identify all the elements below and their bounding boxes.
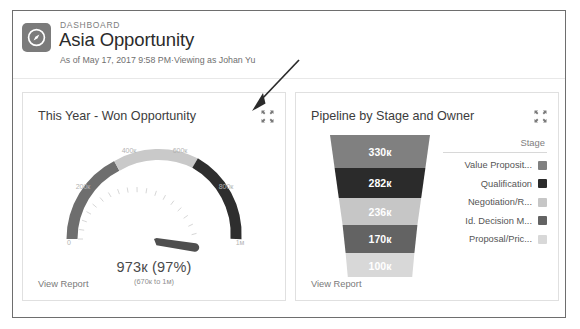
dashboard-header: DASHBOARD Asia Opportunity As of May 17,… — [13, 11, 565, 79]
legend-swatch-icon — [538, 198, 547, 207]
legend-item-label: Proposal/Pric... — [469, 234, 532, 244]
legend-item-negotiation-review[interactable]: Negotiation/R... — [443, 193, 547, 212]
gauge-tick-label-1: 200к — [76, 183, 92, 190]
expand-icon[interactable] — [534, 110, 547, 123]
card-title-funnel: Pipeline by Stage and Owner — [311, 109, 474, 123]
funnel-chart: 330к 282к 236к 170к 100к — [318, 135, 442, 283]
gauge-tick-label-3: 600к — [173, 147, 189, 154]
page-title: Asia Opportunity — [59, 29, 194, 51]
funnel-label-2: 236к — [369, 206, 393, 218]
gauge-value-text: 973к (97%) — [116, 259, 191, 275]
legend-item-label: Negotiation/R... — [468, 197, 532, 207]
legend-item-label: Value Proposit... — [464, 160, 532, 170]
legend-swatch-icon — [538, 179, 547, 188]
dashboard-window: DASHBOARD Asia Opportunity As of May 17,… — [12, 10, 566, 318]
gauge-tick-label-5: 1м — [236, 239, 245, 246]
view-report-link-gauge[interactable]: View Report — [38, 279, 88, 289]
gauge-tick-label-0: 0 — [67, 239, 71, 246]
gauge-needle — [153, 238, 200, 252]
legend-item-value-proposition[interactable]: Value Proposit... — [443, 156, 547, 175]
card-pipeline-by-stage-and-owner: Pipeline by Stage and Owner — [295, 92, 559, 301]
legend-swatch-icon — [538, 216, 547, 225]
dashboard-gauge-icon — [22, 23, 51, 52]
view-report-link-funnel[interactable]: View Report — [311, 279, 361, 289]
legend-item-qualification[interactable]: Qualification — [443, 175, 547, 194]
funnel-label-1: 282к — [369, 177, 393, 189]
legend-divider — [443, 152, 547, 153]
card-title-gauge: This Year - Won Opportunity — [38, 109, 196, 123]
funnel-label-3: 170к — [369, 233, 393, 245]
legend-item-proposal-price-quote[interactable]: Proposal/Pric... — [443, 230, 547, 249]
legend-title: Stage — [443, 137, 547, 152]
gauge-value-label: 973к (97%) — [23, 259, 285, 275]
expand-icon[interactable] — [261, 110, 274, 123]
funnel-legend: Stage Value Proposit... Qualification Ne… — [443, 137, 547, 249]
gauge-tick-label-2: 400к — [122, 147, 138, 154]
gauge-tick-label-4: 800к — [219, 183, 235, 190]
card-this-year-won-opportunity: This Year - Won Opportunity — [22, 92, 286, 301]
screenshot-root: DASHBOARD Asia Opportunity As of May 17,… — [0, 0, 580, 329]
legend-item-id-decision-makers[interactable]: Id. Decision M... — [443, 212, 547, 231]
legend-item-label: Qualification — [481, 179, 532, 189]
legend-swatch-icon — [538, 161, 547, 170]
funnel-label-4: 100к — [369, 260, 393, 272]
legend-swatch-icon — [538, 235, 547, 244]
gauge-chart: 0 200к 400к 600к 800к 1м 973к (97%) (670… — [23, 127, 285, 257]
legend-item-label: Id. Decision M... — [465, 216, 532, 226]
dashboard-subtitle: As of May 17, 2017 9:58 PM·Viewing as Jo… — [60, 55, 255, 65]
funnel-label-0: 330к — [369, 146, 393, 158]
